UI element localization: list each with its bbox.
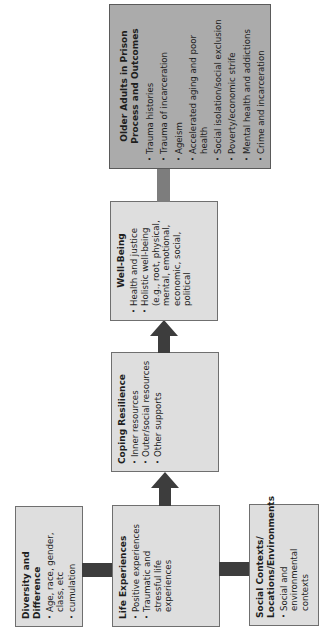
arrow-right-icon xyxy=(149,319,179,353)
list-item: Age, race, gender, class, etc xyxy=(45,513,66,619)
arrow-right-icon xyxy=(150,471,180,506)
connector-life-social xyxy=(219,562,250,576)
list-item: cumulation xyxy=(67,513,77,619)
life-experiences-box: Life Experiences Positive experiences Tr… xyxy=(112,505,220,627)
list-item: Crime and incarceration xyxy=(256,11,266,161)
list-item: Poverty/economic strife xyxy=(227,11,237,161)
coping-resilience-box: Coping Resilience Inner resources Outer/… xyxy=(111,352,219,472)
well-being-box: Well-Being Health and justice Holistic w… xyxy=(110,201,218,321)
list-item: Inner resources xyxy=(130,359,140,464)
well-being-title: Well-Being xyxy=(116,208,127,313)
list-item: Outer/social resources xyxy=(141,359,151,464)
list-item: Social and environmental contexts xyxy=(279,511,310,618)
list-item: Accelerated aging and poor health xyxy=(188,11,209,161)
list-item: Mental health and addictions xyxy=(242,11,252,161)
older-adults-outcomes-list: Trauma histories Trauma of incarceration… xyxy=(145,11,267,161)
social-contexts-list: Social and environmental contexts xyxy=(279,511,310,618)
diversity-title: Diversity and Difference xyxy=(21,513,43,619)
diversity-box: Diversity and Difference Age, race, gend… xyxy=(15,506,83,627)
diagram-canvas: Diversity and Difference Age, race, gend… xyxy=(0,0,333,642)
list-item: Ageism xyxy=(174,11,184,161)
coping-resilience-title: Coping Resilience xyxy=(117,359,128,464)
well-being-list: Health and justice Holistic well-being (… xyxy=(129,208,192,313)
life-experiences-title: Life Experiences xyxy=(118,512,129,619)
older-adults-outcomes-box: Older Adults in Prison Process and Outco… xyxy=(109,4,271,169)
list-item: Holistic well-being (e.g., root, physica… xyxy=(140,208,192,313)
social-contexts-title: Social Contexts/ Locations/Environments xyxy=(255,511,277,618)
list-item: Health and justice xyxy=(129,208,139,313)
older-adults-outcomes-title: Older Adults in Prison Process and Outco… xyxy=(119,11,141,161)
list-item: Trauma histories xyxy=(145,11,155,161)
social-contexts-box: Social Contexts/ Locations/Environments … xyxy=(249,504,319,626)
list-item: Positive experiences xyxy=(131,512,141,619)
connector-wellbeing-outcomes xyxy=(157,168,170,202)
list-item: Trauma of incarceration xyxy=(159,11,169,161)
list-item: Other supports xyxy=(153,359,163,464)
list-item: Traumatic and stressful life experiences xyxy=(142,512,173,619)
connector-diversity-life xyxy=(82,563,113,577)
list-item: Social isolation/social exclusion xyxy=(213,11,223,161)
diversity-list: Age, race, gender, class, etc cumulation xyxy=(45,513,77,619)
life-experiences-list: Positive experiences Traumatic and stres… xyxy=(131,512,174,619)
coping-resilience-list: Inner resources Outer/social resources O… xyxy=(130,359,163,464)
